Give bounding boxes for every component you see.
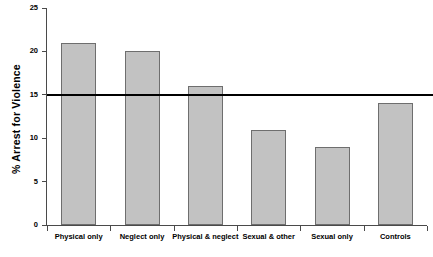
- y-axis-tick-label: 0: [10, 221, 38, 229]
- plot-area: [47, 8, 427, 225]
- x-axis-tick: [110, 226, 111, 231]
- x-axis-tick: [364, 226, 365, 231]
- bar-chart: % Arrest for Violence 0510152025 Physica…: [0, 0, 433, 257]
- x-axis-tick: [174, 226, 175, 231]
- figure-caption: [0, 250, 433, 257]
- x-axis-tick: [237, 226, 238, 231]
- y-axis-tick-label: 15: [10, 91, 38, 99]
- bar: [378, 103, 413, 225]
- bar: [188, 86, 223, 225]
- bar: [315, 147, 350, 225]
- y-axis-tick-label: 10: [10, 134, 38, 142]
- x-axis-category-label: Controls: [345, 233, 433, 241]
- x-axis-tick: [47, 226, 48, 231]
- bar: [61, 43, 96, 225]
- bar: [125, 51, 160, 225]
- x-axis-tick: [300, 226, 301, 231]
- y-axis-tick-label: 25: [10, 4, 38, 12]
- y-axis-tick-label: 20: [10, 47, 38, 55]
- y-axis-tick-label: 5: [10, 178, 38, 186]
- reference-line: [47, 94, 433, 96]
- bar: [251, 130, 286, 225]
- x-axis-tick: [427, 226, 428, 231]
